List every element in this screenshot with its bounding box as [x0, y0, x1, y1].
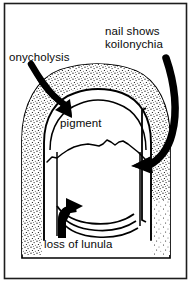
- label-koilonychia-line2: koilonychia: [105, 38, 163, 51]
- label-loss-of-lunula: loss of lunula: [44, 238, 113, 251]
- label-pigment: pigment: [60, 117, 102, 130]
- label-koilonychia: nail showskoilonychia: [105, 25, 163, 51]
- figure-canvas: onycholysis nail showskoilonychia pigmen…: [0, 0, 194, 287]
- label-onycholysis: onycholysis: [9, 51, 70, 64]
- label-koilonychia-line1: nail shows: [105, 25, 160, 37]
